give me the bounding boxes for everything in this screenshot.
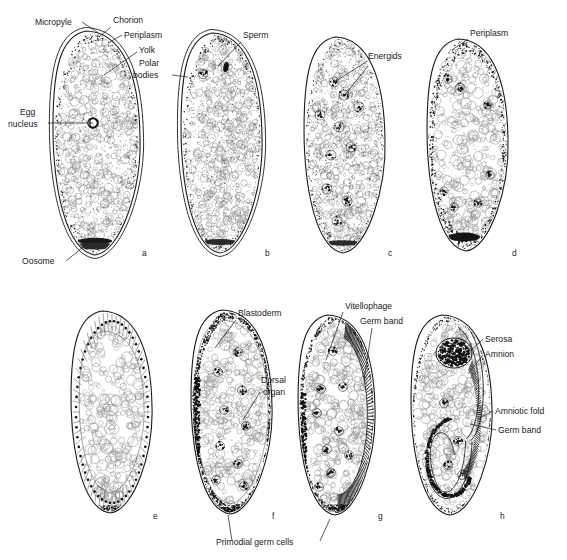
- stipple-dot: [208, 436, 209, 437]
- stipple-dot: [337, 418, 338, 419]
- stipple-dot: [354, 406, 355, 407]
- stipple-dot: [134, 114, 135, 115]
- stipple-dot: [208, 105, 209, 106]
- stipple-dot: [229, 349, 230, 350]
- stipple-dot: [451, 369, 452, 370]
- periplasm-dot: [429, 121, 430, 122]
- periplasm-dot: [269, 425, 270, 426]
- stipple-dot: [321, 138, 322, 139]
- stipple-dot: [492, 179, 493, 180]
- stipple-dot: [245, 99, 246, 100]
- periplasm-dot: [129, 201, 130, 202]
- stipple-dot: [220, 345, 221, 346]
- dorsal-organ-cell: [197, 425, 200, 428]
- periplasm-dot: [208, 332, 209, 333]
- vitellophage-6-chromatin: [350, 452, 352, 454]
- stipple-dot: [206, 203, 207, 204]
- periplasm-dot: [307, 117, 308, 118]
- stipple-dot: [121, 185, 122, 186]
- stipple-dot: [104, 166, 105, 167]
- periplasm-dot: [330, 46, 331, 47]
- stipple-dot: [244, 126, 245, 127]
- stipple-dot: [354, 238, 355, 239]
- stipple-dot: [456, 453, 457, 454]
- stipple-dot: [371, 84, 372, 85]
- stipple-dot: [321, 175, 322, 176]
- stipple-dot: [232, 232, 233, 233]
- dorsal-organ-cell: [198, 432, 200, 434]
- stipple-dot: [213, 459, 214, 460]
- stipple-dot: [372, 171, 373, 172]
- stipple-dot: [462, 464, 463, 465]
- stipple-dot: [209, 117, 210, 118]
- stipple-dot: [73, 118, 74, 119]
- stipple-dot: [223, 116, 224, 117]
- stipple-dot: [107, 226, 108, 227]
- stipple-dot: [248, 390, 249, 391]
- stipple-dot: [354, 235, 355, 236]
- periplasm-dot: [225, 318, 226, 319]
- dorsal-organ-cell: [304, 414, 306, 416]
- stipple-dot: [316, 424, 317, 425]
- periplasm-dot: [121, 64, 123, 66]
- periplasm-dot: [315, 81, 316, 82]
- stipple-dot: [325, 150, 326, 151]
- stipple-dot: [224, 198, 225, 199]
- blastoderm-nucleus: [90, 485, 93, 488]
- pole-cell-4-chromatin: [121, 509, 122, 510]
- primodial-germ-cell-6-chromatin: [247, 509, 248, 510]
- periplasm-dot: [497, 197, 498, 198]
- stipple-dot: [107, 105, 108, 106]
- stipple-dot: [215, 54, 216, 55]
- stipple-dot: [359, 104, 360, 105]
- stipple-dot: [134, 107, 135, 108]
- periplasm-dot: [191, 73, 192, 74]
- stipple-dot: [202, 103, 203, 104]
- stipple-dot: [359, 468, 360, 469]
- stipple-dot: [218, 115, 219, 116]
- periplasm-dot: [207, 234, 208, 235]
- stipple-dot: [75, 172, 76, 173]
- periplasm-dot: [188, 106, 189, 107]
- stipple-dot: [362, 180, 363, 181]
- amniotic-fold-cell: [454, 345, 456, 347]
- stipple-dot: [452, 178, 453, 179]
- periplasm-dot: [489, 411, 490, 412]
- stipple-dot: [317, 125, 318, 126]
- stipple-dot: [361, 385, 362, 386]
- stipple-dot: [87, 183, 88, 184]
- periplasm-dot: [440, 213, 441, 214]
- stipple-dot: [88, 224, 89, 225]
- stipple-dot: [97, 179, 98, 180]
- stipple-dot: [457, 156, 458, 157]
- stipple-dot: [70, 131, 71, 132]
- stipple-dot: [309, 375, 310, 376]
- periplasm-dot: [102, 40, 103, 41]
- stipple-dot: [132, 162, 133, 163]
- periplasm-dot: [247, 66, 248, 67]
- periplasm-dot: [312, 486, 313, 487]
- stipple-dot: [241, 114, 242, 115]
- stipple-dot: [199, 118, 200, 119]
- stipple-dot: [368, 153, 369, 154]
- stipple-dot: [241, 67, 242, 68]
- stipple-dot: [196, 134, 197, 135]
- stipple-dot: [113, 100, 114, 101]
- stipple-dot: [345, 84, 346, 85]
- dorsal-organ-cell: [198, 394, 200, 396]
- periplasm-dot: [441, 215, 442, 216]
- stipple-dot: [461, 392, 462, 393]
- stipple-dot: [356, 131, 357, 132]
- stipple-dot: [350, 120, 351, 121]
- stipple-dot: [464, 227, 465, 228]
- stipple-dot: [73, 181, 74, 182]
- vitellophage-6-chromatin: [345, 457, 346, 458]
- periplasm-dot: [89, 39, 90, 40]
- stipple-dot: [86, 188, 87, 189]
- stipple-dot: [330, 171, 331, 172]
- periplasm-dot: [197, 370, 199, 372]
- stipple-dot: [119, 116, 120, 117]
- blastoderm-nucleus: [105, 321, 108, 324]
- stipple-dot: [121, 187, 122, 188]
- stipple-dot: [373, 205, 374, 206]
